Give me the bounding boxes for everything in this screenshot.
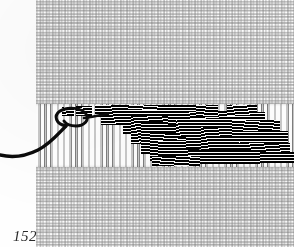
canvas-ground-upper bbox=[36, 0, 294, 105]
needlework-plate: 152 bbox=[0, 0, 294, 247]
stitch-block bbox=[62, 107, 74, 116]
stitch-block bbox=[76, 106, 92, 116]
page-number: 152 bbox=[13, 229, 37, 244]
stitch-field bbox=[36, 104, 294, 167]
stitch-block bbox=[152, 156, 200, 166]
canvas-ground-lower bbox=[36, 166, 294, 247]
stitch-block bbox=[227, 105, 257, 116]
stitch-block bbox=[196, 105, 218, 117]
